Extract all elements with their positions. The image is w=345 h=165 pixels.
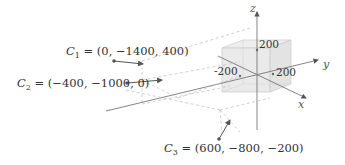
tick-y-200: 200 — [276, 66, 296, 78]
tick-y-neg200: -200 — [214, 65, 238, 77]
camera-direction-arrows — [114, 61, 230, 139]
x-axis-label: x — [298, 98, 304, 111]
z-axis-label: z — [250, 2, 256, 15]
camera-2-label: C2 = (−400, −1000, 0) — [17, 76, 149, 92]
camera-1-label: C1 = (0, −1400, 400) — [66, 44, 189, 60]
camera-3-label: C3 = (600, −800, −200) — [164, 141, 304, 157]
y-axis-label: y — [323, 58, 329, 71]
diagram-canvas: z y x 200 200 -200 C1 = (0, −1400, 400) … — [0, 0, 345, 165]
tick-z-200: 200 — [259, 38, 279, 50]
